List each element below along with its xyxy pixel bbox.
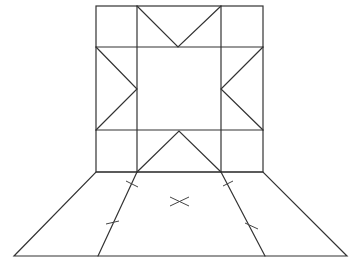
triangle-top (137, 6, 221, 47)
triangle-left (96, 47, 137, 130)
triangle-right (221, 47, 263, 130)
triangle-bottom (137, 131, 221, 172)
outer-square (96, 6, 263, 172)
trapezoid-floor (14, 172, 347, 256)
tick-marks (106, 181, 258, 229)
center-x-mark (170, 197, 189, 206)
trapezoid-inner-right (221, 172, 265, 256)
square-block (96, 6, 263, 172)
star-points (96, 6, 263, 172)
trapezoid-outline (14, 172, 347, 256)
trapezoid-inner-left (98, 172, 137, 256)
tick-mark (245, 223, 258, 229)
quilt-diagram (0, 0, 359, 266)
